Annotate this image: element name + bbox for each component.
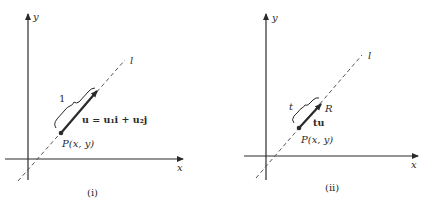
- point-label: P(x, y): [300, 134, 333, 145]
- panel-ii: y x l t R tu P(x, y) (ii): [244, 12, 418, 193]
- panel-i: y x l 1 u = u₁i + u₂j P(x, y) (i): [5, 11, 183, 198]
- x-axis-label: x: [411, 159, 417, 170]
- x-axis-label: x: [177, 162, 183, 173]
- panel-caption: (ii): [325, 182, 339, 193]
- point-label: P(x, y): [61, 138, 94, 149]
- y-axis-label: y: [32, 11, 39, 22]
- brace-label: t: [289, 101, 294, 112]
- point-p: [297, 126, 302, 131]
- unit-vector-arrow: [61, 91, 97, 133]
- line-label: l: [368, 50, 371, 61]
- figure: y x l 1 u = u₁i + u₂j P(x, y) (i) y x l …: [0, 0, 426, 208]
- point-p: [59, 131, 64, 136]
- vector-label: tu: [313, 117, 324, 128]
- y-axis-label: y: [271, 12, 278, 23]
- panel-caption: (i): [87, 187, 98, 198]
- line-label: l: [130, 55, 133, 66]
- endpoint-label: R: [324, 103, 333, 114]
- brace-label: 1: [59, 93, 65, 104]
- vector-label: u = u₁i + u₂j: [82, 114, 147, 125]
